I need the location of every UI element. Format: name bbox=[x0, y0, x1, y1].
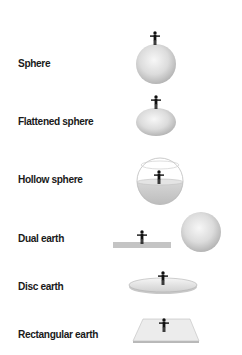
disc-earth-shape-icon bbox=[129, 271, 197, 294]
rectangular-earth-shape-icon bbox=[133, 318, 199, 343]
hollow-sphere-shape-icon bbox=[137, 158, 183, 205]
earth-shapes-illustration bbox=[0, 0, 242, 355]
flattened-sphere-shape-icon bbox=[136, 95, 176, 136]
dual-earth-shape-icon bbox=[113, 212, 221, 252]
sphere-shape-icon bbox=[136, 31, 176, 84]
